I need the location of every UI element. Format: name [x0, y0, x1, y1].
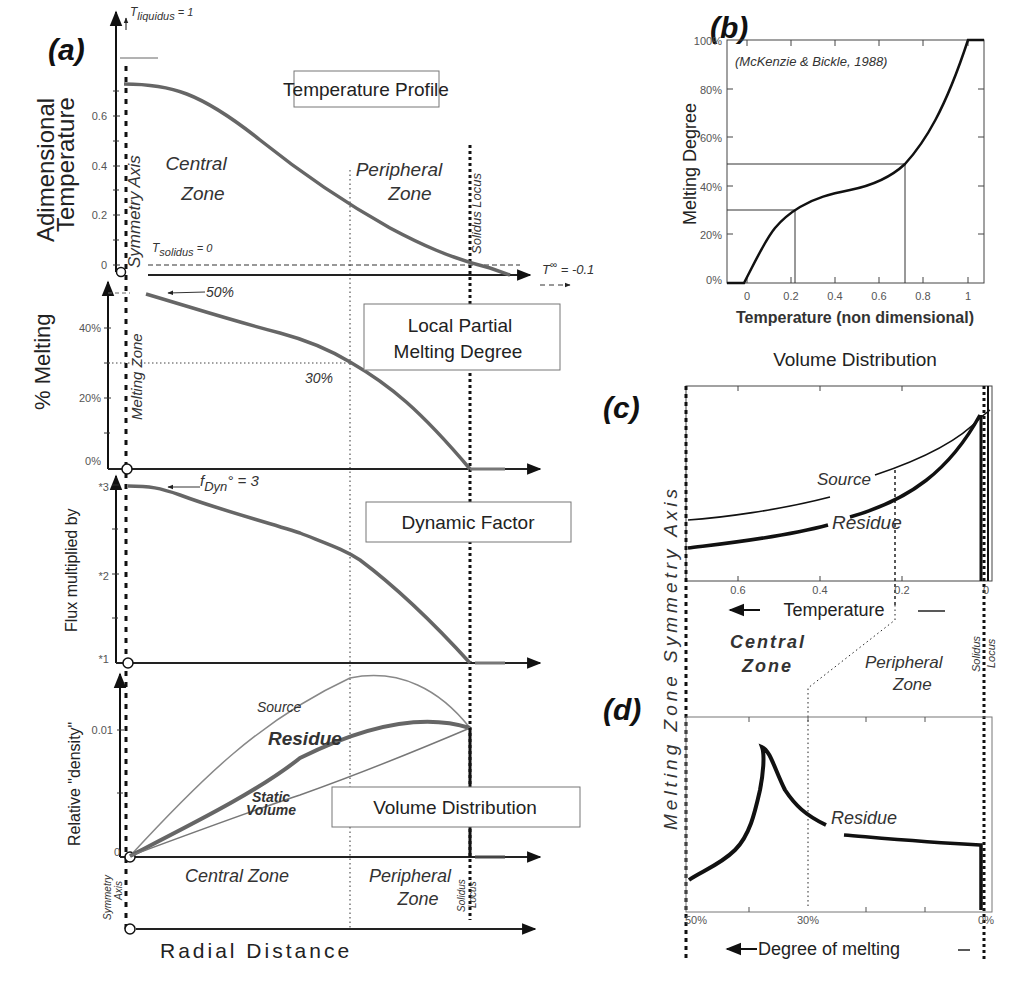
melting-degree-curve — [727, 40, 984, 283]
solidus-locus-label: Solidus Locus — [469, 173, 484, 254]
peripheral-connector — [808, 605, 895, 906]
svg-text:0: 0 — [983, 584, 989, 596]
volume-subplot: 0.01 0 Relative "density" Source Residue… — [66, 674, 580, 920]
melting-ylabel: % Melting — [30, 313, 55, 410]
cd-central-zone-1: Central — [730, 632, 806, 652]
svg-text:Zone: Zone — [387, 183, 431, 204]
panel-c-title: Volume Distribution — [773, 349, 937, 370]
panel-label-a: (a) — [48, 33, 85, 66]
d-residue-curve-left — [689, 747, 826, 880]
svg-text:0.4: 0.4 — [92, 160, 107, 172]
svg-text:80%: 80% — [700, 84, 722, 96]
svg-text:30%: 30% — [797, 914, 819, 926]
svg-text:0%: 0% — [85, 455, 101, 467]
cd-solidus-1: Solidus — [970, 635, 982, 672]
dynamic-subplot: *3 *2 *1 Flux multiplied by fDyn° = 3 Dy… — [63, 472, 571, 668]
svg-text:20%: 20% — [79, 392, 101, 404]
c-residue-curve-left — [688, 525, 828, 548]
svg-text:*3: *3 — [99, 481, 109, 493]
melting-zone-label: Melting Zone — [128, 333, 145, 420]
svg-text:Melting Degree: Melting Degree — [394, 341, 523, 362]
svg-text:50%: 50% — [685, 914, 707, 926]
figure-canvas: (a) 0.6 0.4 0.2 0 — [0, 0, 1020, 985]
svg-text:Volume Distribution: Volume Distribution — [373, 797, 537, 818]
panel-b: (b) 100% 80% 60% 40% 20% 0% 0 0.2 0.4 0.… — [680, 11, 984, 326]
svg-text:0.2: 0.2 — [92, 209, 107, 221]
svg-text:0: 0 — [114, 846, 120, 858]
svg-text:60%: 60% — [700, 132, 722, 144]
d-residue-curve-right — [844, 835, 981, 910]
c-residue-label: Residue — [832, 512, 902, 533]
svg-text:1: 1 — [965, 290, 971, 302]
liquidus-label: Tliquidus = 1 — [130, 5, 193, 22]
cd-solidus-2: Locus — [985, 638, 997, 668]
svg-text:*2: *2 — [99, 570, 109, 582]
panel-b-ticks — [727, 40, 984, 283]
svg-text:0.2: 0.2 — [894, 584, 909, 596]
c-source-label: Source — [817, 470, 871, 489]
svg-text:0: 0 — [744, 290, 750, 302]
source-label: Source — [257, 699, 302, 715]
c-source-curve-right — [875, 410, 990, 475]
citation: (McKenzie & Bickle, 1988) — [735, 54, 887, 69]
cd-central-zone-2: Zone — [741, 656, 793, 676]
volume-ylabel: Relative "density" — [66, 722, 83, 846]
svg-text:20%: 20% — [700, 229, 722, 241]
dynamic-ylabel: Flux multiplied by — [63, 508, 80, 632]
panel-c-xlabel: Temperature — [783, 600, 884, 620]
svg-text:100%: 100% — [694, 35, 722, 47]
svg-text:0.4: 0.4 — [827, 290, 842, 302]
svg-text:0%: 0% — [706, 274, 722, 286]
solidus-bottom-1: Solidus — [456, 879, 467, 912]
peripheral-zone-label: Peripheral — [356, 159, 443, 180]
svg-text:Dynamic Factor: Dynamic Factor — [401, 512, 535, 533]
panel-a: (a) 0.6 0.4 0.2 0 — [30, 5, 594, 962]
cd-peripheral-2: Zone — [892, 675, 932, 694]
melting-subplot: 40% 20% 0% % Melting 50% 30% Local Parti… — [30, 282, 560, 474]
symmetry-axis-label: Symmetry Axis — [125, 155, 144, 268]
svg-text:40%: 40% — [79, 322, 101, 334]
panel-b-ylabel: Melting Degree — [680, 103, 700, 225]
temperature-subplot: 0.6 0.4 0.2 0 Adimensional Temperature T… — [32, 5, 594, 285]
panel-d-xlabel: Degree of melting — [758, 939, 900, 959]
d-residue-label: Residue — [831, 808, 897, 828]
svg-text:0.8: 0.8 — [915, 290, 930, 302]
radial-distance-label: Radial Distance — [160, 939, 352, 962]
solidus-bottom-2: Locus — [467, 881, 478, 908]
svg-text:0.6: 0.6 — [730, 584, 745, 596]
svg-text:Temperature Profile: Temperature Profile — [283, 79, 449, 100]
annotation-30: 30% — [305, 370, 333, 386]
melting-zone-symmetry-axis-label: Melting Zone Symmetry Axis — [660, 485, 681, 830]
peripheral-zone-bottom-1: Peripheral — [369, 866, 452, 886]
panel-label-c: (c) — [603, 391, 640, 424]
svg-text:0: 0 — [101, 259, 107, 271]
central-zone-bottom: Central Zone — [185, 866, 289, 886]
residue-label: Residue — [268, 728, 342, 749]
tinf-label: T∞ = -0.1 — [542, 259, 594, 277]
svg-text:0.6: 0.6 — [92, 110, 107, 122]
symmetry-bottom-2: Axis — [113, 881, 124, 901]
c-source-curve-left — [688, 497, 830, 520]
svg-text:0%: 0% — [978, 914, 994, 926]
svg-text:*1: *1 — [99, 653, 109, 665]
solidus-label: Tsolidus = 0 — [152, 241, 213, 258]
temperature-ylabel-2: Temperature — [52, 97, 79, 232]
svg-text:Zone: Zone — [396, 889, 438, 909]
svg-text:0.2: 0.2 — [783, 290, 798, 302]
svg-text:0.6: 0.6 — [871, 290, 886, 302]
svg-text:Local Partial: Local Partial — [408, 315, 513, 336]
static-label-2: Volume — [246, 802, 296, 818]
panel-label-d: (d) — [603, 693, 641, 726]
central-zone-label: Central — [165, 153, 227, 174]
annotation-50: 50% — [206, 284, 234, 300]
svg-text:Zone: Zone — [180, 183, 224, 204]
fdyn-annotation: fDyn° = 3 — [200, 472, 259, 494]
panel-b-xlabel: Temperature (non dimensional) — [736, 309, 974, 326]
svg-text:0.01: 0.01 — [92, 724, 113, 736]
svg-text:40%: 40% — [700, 181, 722, 193]
svg-text:0.4: 0.4 — [812, 584, 827, 596]
c-residue-curve-right — [850, 415, 980, 517]
cd-peripheral-1: Peripheral — [865, 653, 944, 672]
panel-b-frame — [727, 40, 984, 283]
symmetry-bottom-1: Symmetry — [102, 874, 113, 920]
